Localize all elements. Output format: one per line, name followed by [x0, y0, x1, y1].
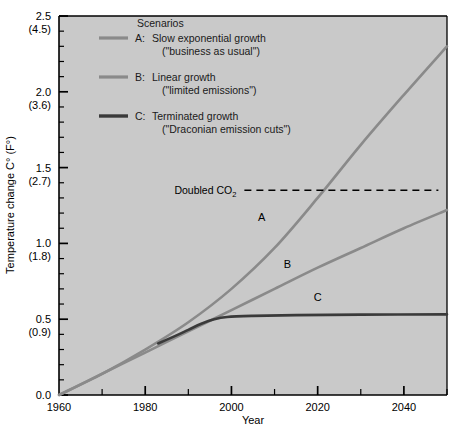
y-tick-label: 0.5 — [36, 313, 51, 325]
curve-label-b: B — [284, 258, 291, 270]
legend-label-c-line2: ("Draconian emission cuts") — [162, 123, 291, 135]
legend-label-c-line1: Terminated growth — [152, 110, 239, 122]
x-tick-label: 1980 — [133, 401, 157, 413]
y-tick-sublabel: (4.5) — [28, 23, 51, 35]
legend-label-b-line1: Linear growth — [152, 71, 216, 83]
legend-key-c: C: — [135, 110, 146, 122]
x-tick-label: 1960 — [47, 401, 71, 413]
climate-scenarios-chart: 0.00.5(0.9)1.0(1.8)1.5(2.7)2.0(3.6)2.5(4… — [0, 0, 461, 435]
y-tick-label: 2.5 — [36, 10, 51, 22]
legend-key-a: A: — [135, 32, 145, 44]
legend-key-b: B: — [135, 71, 145, 83]
plot-area-background — [59, 16, 447, 395]
y-tick-sublabel: (3.6) — [28, 99, 51, 111]
legend-label-b-line2: ("limited emissions") — [162, 84, 256, 96]
x-tick-label: 2040 — [392, 401, 416, 413]
y-tick-label: 1.0 — [36, 237, 51, 249]
y-tick-sublabel: (1.8) — [28, 250, 51, 262]
curve-label-a: A — [258, 211, 266, 223]
y-axis-title: Temperature change C° (F°) — [4, 136, 16, 274]
y-tick-label: 2.0 — [36, 86, 51, 98]
y-tick-label: 1.5 — [36, 162, 51, 174]
legend-label-a-line2: ("business as usual") — [162, 45, 260, 57]
y-tick-sublabel: (2.7) — [28, 175, 51, 187]
legend-title: Scenarios — [137, 17, 184, 29]
chart-svg: 0.00.5(0.9)1.0(1.8)1.5(2.7)2.0(3.6)2.5(4… — [0, 0, 461, 435]
curve-label-c: C — [314, 291, 322, 303]
y-tick-sublabel: (0.9) — [28, 326, 51, 338]
legend-label-a-line1: Slow exponential growth — [152, 32, 266, 44]
x-tick-label: 2020 — [305, 401, 329, 413]
y-tick-label: 0.0 — [36, 389, 51, 401]
x-tick-label: 2000 — [219, 401, 243, 413]
x-axis-title: Year — [242, 414, 265, 426]
